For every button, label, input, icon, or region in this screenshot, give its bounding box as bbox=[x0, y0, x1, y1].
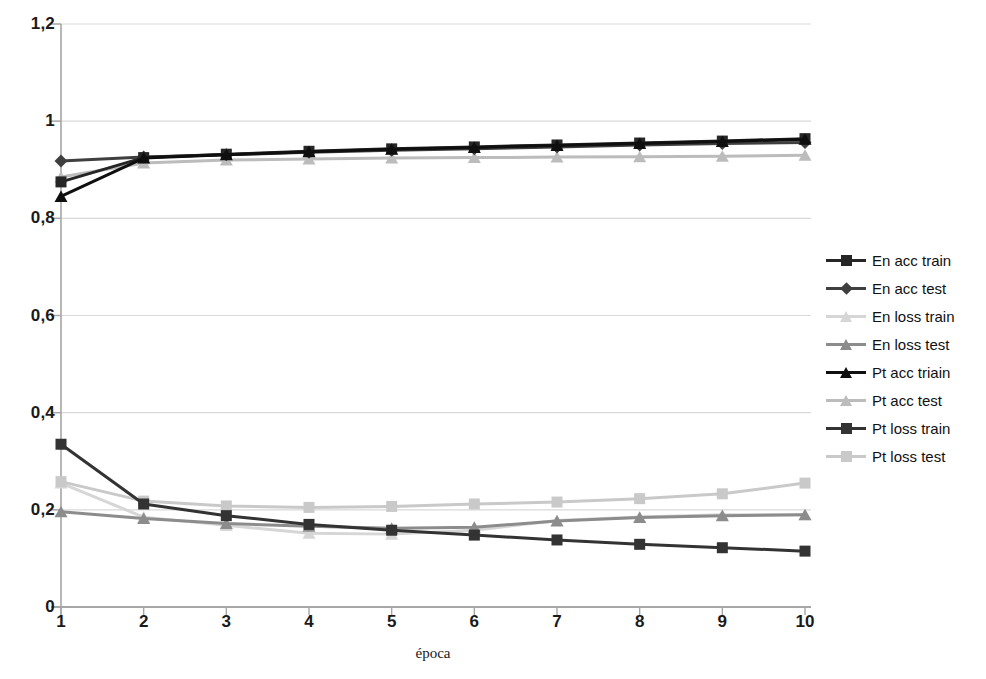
data-point-pt-acc-triain bbox=[55, 190, 68, 202]
y-axis-label: 0 bbox=[9, 597, 55, 617]
data-point-pt-loss-test bbox=[469, 499, 480, 510]
x-axis-label: 2 bbox=[139, 612, 148, 632]
legend-label: Pt acc triain bbox=[872, 364, 950, 381]
series-pt-acc-test bbox=[55, 149, 812, 182]
data-point-pt-loss-train bbox=[552, 534, 563, 545]
y-axis-label: 0,4 bbox=[9, 403, 55, 423]
y-axis-tick-labels: 00,20,40,60,811,2 bbox=[0, 0, 55, 679]
series-line-pt-loss-test bbox=[61, 482, 805, 508]
y-axis-label: 0,6 bbox=[9, 306, 55, 326]
data-point-pt-loss-train bbox=[304, 519, 315, 530]
data-point-pt-loss-train bbox=[138, 499, 149, 510]
legend-key-en-acc-train bbox=[826, 252, 866, 268]
data-point-pt-loss-test bbox=[221, 500, 232, 511]
data-point-en-acc-test bbox=[55, 155, 68, 168]
data-point-pt-loss-test bbox=[56, 476, 67, 487]
y-axis-label: 0,8 bbox=[9, 208, 55, 228]
data-point-pt-loss-train bbox=[56, 439, 67, 450]
legend-key-pt-loss-train bbox=[826, 420, 866, 436]
y-axis-label: 1,2 bbox=[9, 14, 55, 34]
data-point-pt-loss-train bbox=[469, 530, 480, 541]
legend-item-en-loss-train[interactable]: En loss train bbox=[826, 302, 984, 330]
legend-marker-triangle-icon bbox=[840, 395, 852, 406]
legend-item-en-acc-test[interactable]: En acc test bbox=[826, 274, 984, 302]
legend-item-pt-acc-triain[interactable]: Pt acc triain bbox=[826, 358, 984, 386]
series-line-pt-loss-train bbox=[61, 444, 805, 551]
data-point-pt-loss-test bbox=[717, 488, 728, 499]
data-point-pt-loss-test bbox=[386, 501, 397, 512]
x-axis-label: 7 bbox=[552, 612, 561, 632]
x-axis-label: 4 bbox=[304, 612, 313, 632]
y-axis-label: 1 bbox=[9, 111, 55, 131]
chart-container: 00,20,40,60,811,2 época En acc trainEn a… bbox=[0, 0, 986, 679]
data-point-pt-loss-test bbox=[800, 478, 811, 489]
legend-label: En loss train bbox=[872, 308, 955, 325]
x-axis-label: 9 bbox=[718, 612, 727, 632]
x-axis-label: 1 bbox=[56, 612, 65, 632]
series-line-pt-acc-test bbox=[61, 155, 805, 177]
legend-label: En acc train bbox=[872, 252, 951, 269]
data-point-pt-loss-test bbox=[634, 493, 645, 504]
legend-label: Pt loss train bbox=[872, 420, 950, 437]
legend-item-pt-loss-train[interactable]: Pt loss train bbox=[826, 414, 984, 442]
legend-item-pt-acc-test[interactable]: Pt acc test bbox=[826, 386, 984, 414]
legend-marker-square-icon bbox=[841, 451, 852, 462]
data-point-pt-loss-train bbox=[386, 525, 397, 536]
legend-marker-triangle-icon bbox=[840, 339, 852, 350]
data-point-pt-loss-train bbox=[634, 539, 645, 550]
y-axis-label: 0,2 bbox=[9, 500, 55, 520]
legend-item-en-acc-train[interactable]: En acc train bbox=[826, 246, 984, 274]
legend-item-en-loss-test[interactable]: En loss test bbox=[826, 330, 984, 358]
legend-key-pt-acc-test bbox=[826, 392, 866, 408]
legend-label: Pt acc test bbox=[872, 392, 942, 409]
x-axis-label: 6 bbox=[470, 612, 479, 632]
legend-marker-triangle-icon bbox=[840, 367, 852, 378]
legend-marker-diamond-icon bbox=[840, 282, 853, 295]
legend-key-en-acc-test bbox=[826, 280, 866, 296]
data-point-pt-loss-test bbox=[304, 502, 315, 513]
x-axis-label: 3 bbox=[222, 612, 231, 632]
data-point-pt-loss-train bbox=[717, 542, 728, 553]
series-line-pt-acc-triain bbox=[61, 139, 805, 196]
data-point-pt-loss-train bbox=[221, 510, 232, 521]
legend-label: En acc test bbox=[872, 280, 946, 297]
legend-marker-square-icon bbox=[841, 255, 852, 266]
data-point-en-acc-train bbox=[56, 176, 67, 187]
legend-item-pt-loss-test[interactable]: Pt loss test bbox=[826, 442, 984, 470]
chart-legend: En acc trainEn acc testEn loss trainEn l… bbox=[826, 246, 984, 470]
legend-label: En loss test bbox=[872, 336, 950, 353]
data-point-pt-loss-test bbox=[552, 497, 563, 508]
legend-marker-triangle-icon bbox=[840, 311, 852, 322]
legend-label: Pt loss test bbox=[872, 448, 945, 465]
x-axis-label: 5 bbox=[387, 612, 396, 632]
data-point-pt-loss-train bbox=[800, 546, 811, 557]
legend-key-en-loss-train bbox=[826, 308, 866, 324]
series-pt-acc-triain bbox=[55, 133, 812, 202]
legend-key-en-loss-test bbox=[826, 336, 866, 352]
x-axis-label: 8 bbox=[635, 612, 644, 632]
x-axis-title: época bbox=[0, 645, 866, 662]
legend-key-pt-acc-triain bbox=[826, 364, 866, 380]
series-pt-loss-train bbox=[56, 439, 811, 557]
x-axis-label: 10 bbox=[796, 612, 815, 632]
legend-key-pt-loss-test bbox=[826, 448, 866, 464]
legend-marker-square-icon bbox=[841, 423, 852, 434]
